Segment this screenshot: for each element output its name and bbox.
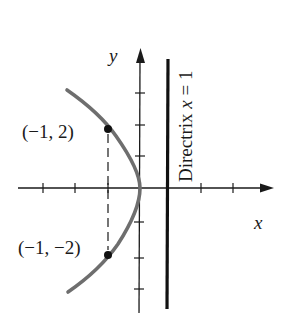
parabola-figure: x y Directrix x = 1 (−1, 2) (−1, −2)	[0, 0, 286, 324]
directrix-label-prefix: Directrix	[175, 109, 196, 182]
directrix-label-suffix: = 1	[175, 71, 196, 101]
point-upper: (−1, 2)	[22, 121, 112, 143]
directrix-label: Directrix x = 1	[175, 71, 196, 182]
parabola-curve	[67, 90, 140, 292]
point-marker-icon	[104, 125, 112, 133]
y-axis-arrow-icon	[136, 48, 145, 63]
point-lower: (−1, −2)	[18, 237, 112, 259]
y-axis-label: y	[107, 45, 118, 66]
point-upper-label: (−1, 2)	[22, 121, 74, 143]
x-axis-label: x	[253, 212, 263, 233]
point-lower-label: (−1, −2)	[18, 237, 81, 259]
point-marker-icon	[104, 251, 112, 259]
x-axis-arrow-icon	[260, 184, 274, 193]
directrix: Directrix x = 1	[167, 59, 196, 309]
x-axis: x	[18, 183, 274, 233]
